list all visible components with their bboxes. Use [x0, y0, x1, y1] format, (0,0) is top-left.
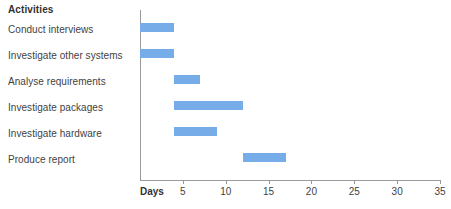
x-axis-tick	[311, 180, 312, 184]
x-axis-tick	[269, 180, 270, 184]
x-axis-tick	[440, 180, 441, 184]
x-axis-tick-label: 30	[392, 186, 403, 197]
gantt-bar	[140, 49, 174, 58]
x-axis-tick-label: 25	[349, 186, 360, 197]
x-axis-tick-label: 10	[220, 186, 231, 197]
activity-row-label: Produce report	[8, 154, 75, 165]
activity-label-column: Activities Conduct interviewsInvestigate…	[0, 0, 134, 209]
x-axis-tick-label: 20	[306, 186, 317, 197]
gantt-bar	[140, 23, 174, 32]
x-axis-tick-label: 35	[434, 186, 445, 197]
x-axis-line	[140, 180, 441, 181]
gantt-chart: Activities Conduct interviewsInvestigate…	[0, 0, 451, 209]
x-axis-tick	[354, 180, 355, 184]
activities-column-header: Activities	[8, 4, 53, 15]
x-axis-title: Days	[140, 186, 164, 197]
activity-row-label: Investigate hardware	[8, 128, 102, 139]
gantt-bar	[243, 153, 286, 162]
x-axis-tick	[226, 180, 227, 184]
gantt-bar	[174, 127, 217, 136]
activity-row-label: Conduct interviews	[8, 24, 93, 35]
x-axis-tick	[397, 180, 398, 184]
activity-row-label: Investigate other systems	[8, 50, 123, 61]
gantt-bar	[174, 101, 243, 110]
gantt-bar	[174, 75, 200, 84]
x-axis-tick	[183, 180, 184, 184]
x-axis-tick-label: 5	[180, 186, 186, 197]
activity-row-label: Analyse requirements	[8, 76, 106, 87]
y-axis-line	[140, 10, 141, 181]
activity-row-label: Investigate packages	[8, 102, 103, 113]
x-axis-tick-label: 15	[263, 186, 274, 197]
